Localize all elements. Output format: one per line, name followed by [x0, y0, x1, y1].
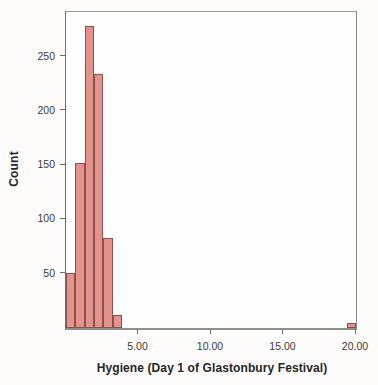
- x-tick-label: 20.00: [342, 340, 368, 352]
- x-tick-mark: [282, 329, 283, 334]
- x-tick-mark: [137, 329, 138, 334]
- x-axis-title: Hygiene (Day 1 of Glastonbury Festival): [97, 361, 328, 375]
- x-tick-mark: [355, 329, 356, 334]
- y-tick-label: 150: [19, 158, 55, 170]
- x-tick-mark: [210, 329, 211, 334]
- y-tick-mark: [60, 109, 65, 110]
- histogram-bar: [85, 26, 94, 328]
- y-tick-mark: [60, 218, 65, 219]
- plot-area: [65, 11, 357, 330]
- y-tick-label: 50: [19, 267, 55, 279]
- histogram-bar: [66, 273, 75, 328]
- histogram-bar: [103, 238, 112, 328]
- y-tick-mark: [60, 55, 65, 56]
- histogram-bar: [113, 315, 122, 328]
- histogram-bar: [94, 74, 103, 328]
- x-tick-label: 15.00: [269, 340, 295, 352]
- x-tick-label: 5.00: [127, 340, 147, 352]
- y-tick-label: 200: [19, 104, 55, 116]
- histogram-bar: [75, 163, 84, 328]
- y-tick-mark: [60, 164, 65, 165]
- histogram-figure: Count Hygiene (Day 1 of Glastonbury Fest…: [0, 0, 378, 385]
- histogram-bar: [347, 323, 356, 328]
- y-tick-label: 250: [19, 50, 55, 62]
- y-tick-mark: [60, 272, 65, 273]
- y-tick-label: 100: [19, 212, 55, 224]
- x-tick-label: 10.00: [197, 340, 223, 352]
